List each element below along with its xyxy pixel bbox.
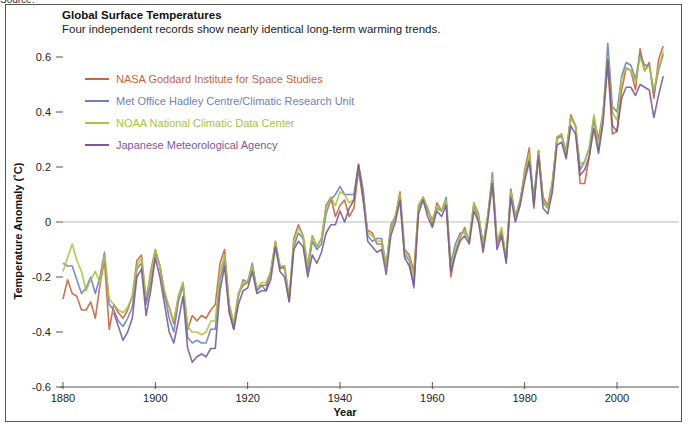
y-tick-label: 0.4 xyxy=(36,106,51,118)
x-tick-label: 1900 xyxy=(143,392,167,404)
y-tick-label: -0.6 xyxy=(32,381,51,393)
x-tick-label: 1940 xyxy=(328,392,352,404)
x-tick-label: 1920 xyxy=(235,392,259,404)
y-tick-label: -0.4 xyxy=(32,326,51,338)
y-tick-label: 0.6 xyxy=(36,51,51,63)
x-tick-label: 2000 xyxy=(605,392,629,404)
legend-label-2: NOAA National Climatic Data Center xyxy=(116,117,295,129)
legend-label-1: Met Office Hadley Centre/Climatic Resear… xyxy=(116,95,354,107)
legend-label-0: NASA Goddard Institute for Space Studies xyxy=(116,73,323,85)
y-tick-label: -0.2 xyxy=(32,271,51,283)
x-tick-label: 1880 xyxy=(51,392,75,404)
x-axis-label: Year xyxy=(320,406,370,418)
x-tick-label: 1960 xyxy=(420,392,444,404)
plot-area: 1880190019201940196019802000-0.6-0.4-0.2… xyxy=(0,0,689,434)
y-tick-label: 0.2 xyxy=(36,161,51,173)
x-tick-label: 1980 xyxy=(512,392,536,404)
y-axis-label: Temperature Anomaly (˚C) xyxy=(12,151,24,311)
legend-label-3: Japanese Meteorological Agency xyxy=(116,139,278,151)
y-tick-label: 0 xyxy=(45,216,51,228)
